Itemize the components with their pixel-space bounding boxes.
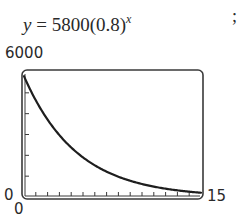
- exponential-curve: [24, 76, 201, 193]
- axis-ticks: [25, 93, 189, 196]
- plot-frame: [22, 70, 203, 199]
- plot-area: [0, 0, 244, 218]
